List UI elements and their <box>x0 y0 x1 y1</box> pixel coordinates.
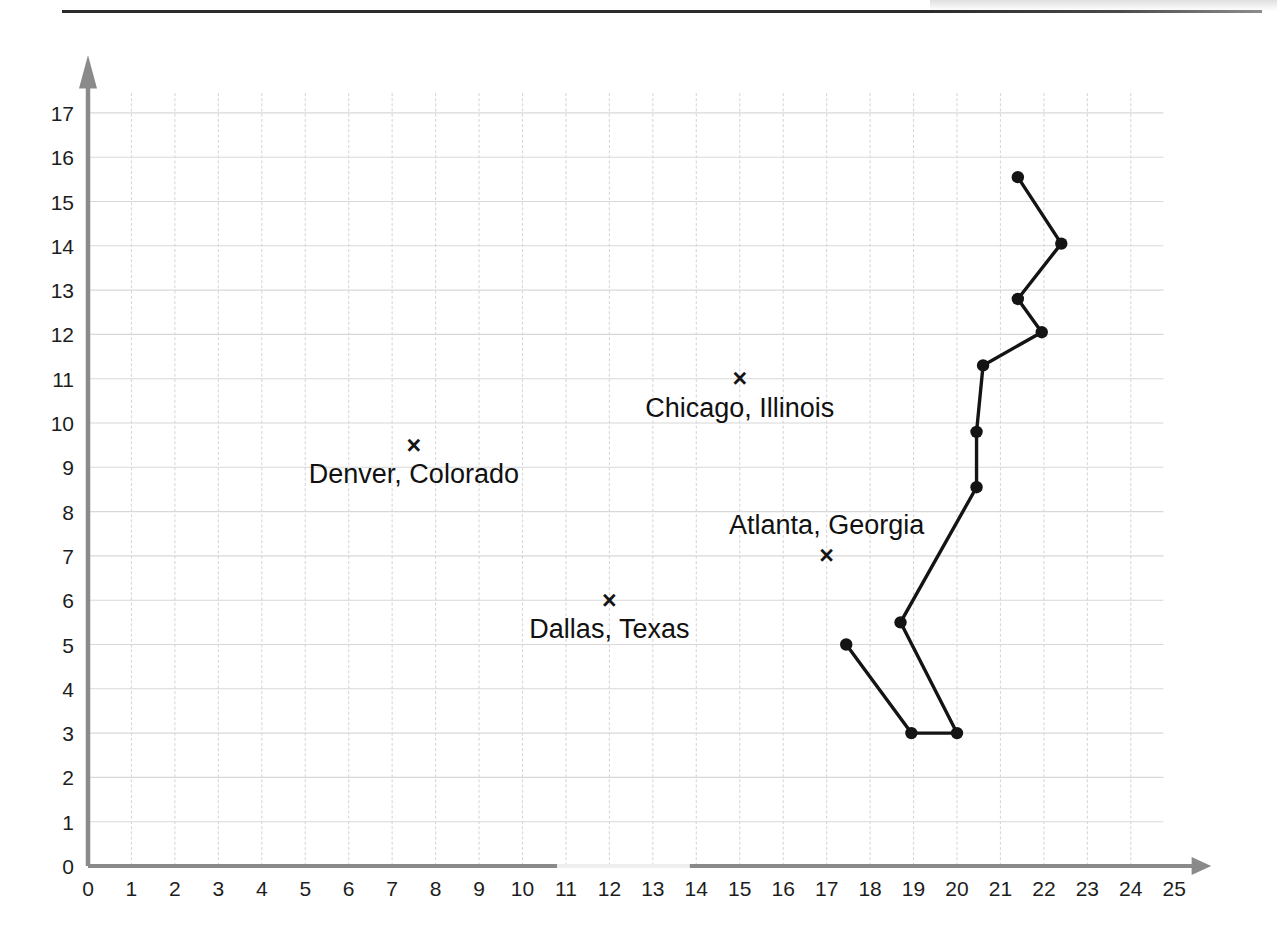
x-tick-1: 1 <box>126 878 138 899</box>
plot-canvas: ×××× <box>0 0 1277 938</box>
x-tick-12: 12 <box>598 878 621 899</box>
y-tick-7: 7 <box>40 545 74 566</box>
x-tick-10: 10 <box>511 878 534 899</box>
x-tick-6: 6 <box>343 878 355 899</box>
point-label: Chicago, Illinois <box>645 395 834 422</box>
x-tick-19: 19 <box>902 878 925 899</box>
x-tick-15: 15 <box>728 878 751 899</box>
svg-text:×: × <box>407 431 422 459</box>
x-tick-20: 20 <box>945 878 968 899</box>
axes <box>79 55 1211 875</box>
x-tick-3: 3 <box>213 878 225 899</box>
x-tick-23: 23 <box>1076 878 1099 899</box>
x-tick-11: 11 <box>555 878 577 899</box>
y-tick-11: 11 <box>40 368 74 389</box>
svg-text:×: × <box>732 364 747 392</box>
point-label: Dallas, Texas <box>529 616 689 643</box>
y-tick-13: 13 <box>40 280 74 301</box>
y-tick-17: 17 <box>40 102 74 123</box>
y-tick-16: 16 <box>40 147 74 168</box>
x-tick-16: 16 <box>772 878 795 899</box>
x-tick-9: 9 <box>473 878 485 899</box>
x-tick-13: 13 <box>641 878 664 899</box>
svg-text:×: × <box>819 541 834 569</box>
svg-text:×: × <box>602 586 617 614</box>
x-tick-14: 14 <box>685 878 708 899</box>
x-tick-21: 21 <box>989 878 1012 899</box>
y-tick-5: 5 <box>40 634 74 655</box>
x-tick-4: 4 <box>256 878 268 899</box>
x-tick-7: 7 <box>386 878 398 899</box>
x-tick-22: 22 <box>1032 878 1055 899</box>
x-tick-0: 0 <box>82 878 94 899</box>
y-tick-0: 0 <box>40 856 74 877</box>
y-tick-15: 15 <box>40 191 74 212</box>
y-tick-12: 12 <box>40 324 74 345</box>
x-tick-24: 24 <box>1119 878 1142 899</box>
y-tick-14: 14 <box>40 235 74 256</box>
y-tick-2: 2 <box>40 767 74 788</box>
point-label: Atlanta, Georgia <box>729 512 924 539</box>
y-tick-10: 10 <box>40 413 74 434</box>
x-tick-2: 2 <box>169 878 181 899</box>
x-tick-17: 17 <box>815 878 838 899</box>
y-tick-4: 4 <box>40 678 74 699</box>
series-line <box>840 171 1067 739</box>
y-tick-6: 6 <box>40 590 74 611</box>
y-tick-3: 3 <box>40 723 74 744</box>
x-tick-18: 18 <box>858 878 881 899</box>
x-tick-8: 8 <box>430 878 442 899</box>
chart-figure: ×××× 01234567891011121314151617181920212… <box>0 0 1277 938</box>
y-tick-1: 1 <box>40 811 74 832</box>
gridlines <box>88 93 1163 866</box>
point-label: Denver, Colorado <box>309 461 519 488</box>
y-tick-9: 9 <box>40 457 74 478</box>
x-tick-25: 25 <box>1163 878 1186 899</box>
x-tick-5: 5 <box>299 878 311 899</box>
y-tick-8: 8 <box>40 501 74 522</box>
